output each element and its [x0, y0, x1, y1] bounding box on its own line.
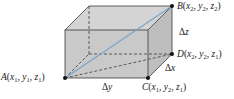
paren: ): [41, 72, 44, 82]
label-delta-z: Δz: [179, 28, 189, 38]
paren: ): [217, 1, 220, 11]
label-point-d: D(x2, y2, z1): [177, 50, 222, 60]
var-z: z: [185, 27, 189, 37]
point-a-dot: [63, 76, 67, 80]
point-d-dot: [170, 52, 174, 56]
paren: ): [218, 49, 221, 59]
var-x: x: [171, 63, 175, 73]
label-point-c: C(x1, y2, z1): [142, 83, 186, 93]
label-delta-y: Δy: [102, 83, 112, 93]
label-d-letter: D: [177, 49, 184, 59]
var-y: y: [108, 82, 112, 92]
label-point-b: B(x2, y2, z2): [177, 2, 221, 12]
distance-3d-diagram: A(x1, y1, z1) B(x2, y2, z2) D(x2, y2, z1…: [0, 0, 234, 99]
point-c-dot: [146, 76, 150, 80]
paren: ): [183, 82, 186, 92]
label-delta-x: Δx: [165, 64, 175, 74]
point-b-dot: [170, 4, 174, 8]
label-point-a: A(x1, y1, z1): [1, 73, 45, 83]
